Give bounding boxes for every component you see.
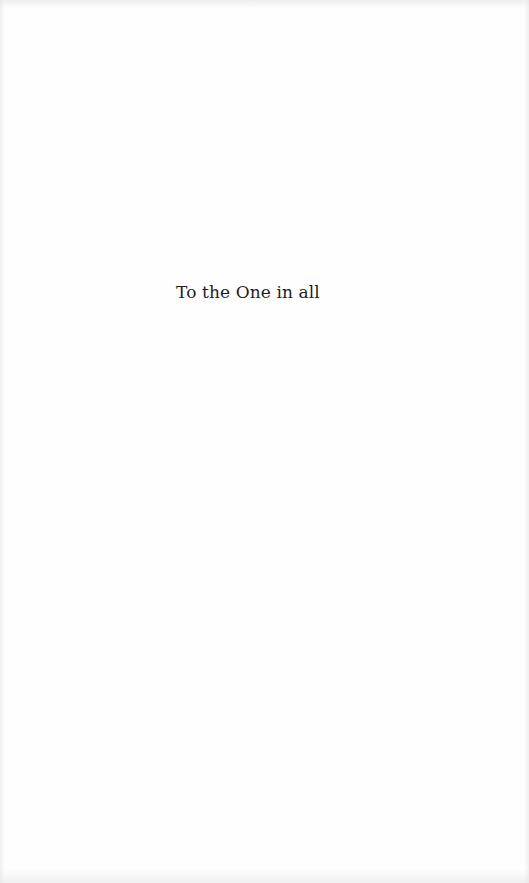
dedication-page: To the One in all: [0, 0, 529, 883]
scan-edge-top: [0, 0, 529, 8]
scan-edge-right: [524, 0, 529, 883]
dedication-text: To the One in all: [0, 278, 496, 306]
scan-edge-bottom: [0, 869, 529, 883]
scan-edge-left: [0, 0, 5, 883]
